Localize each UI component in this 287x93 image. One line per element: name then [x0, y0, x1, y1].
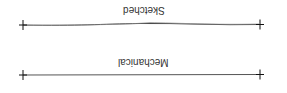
sketched-connector	[23, 23, 260, 26]
sketched-label: Sketched	[123, 4, 165, 16]
sketched-end-marker-icon	[256, 20, 264, 30]
mechanical-connector	[23, 75, 260, 76]
mechanical-end-marker-icon	[256, 70, 264, 80]
mechanical-label: Mechanical	[118, 56, 169, 68]
mechanical-start-marker-icon	[19, 70, 27, 80]
sketched-start-marker-icon	[19, 20, 27, 30]
diagram-canvas: Sketched Mechanical	[0, 0, 287, 93]
